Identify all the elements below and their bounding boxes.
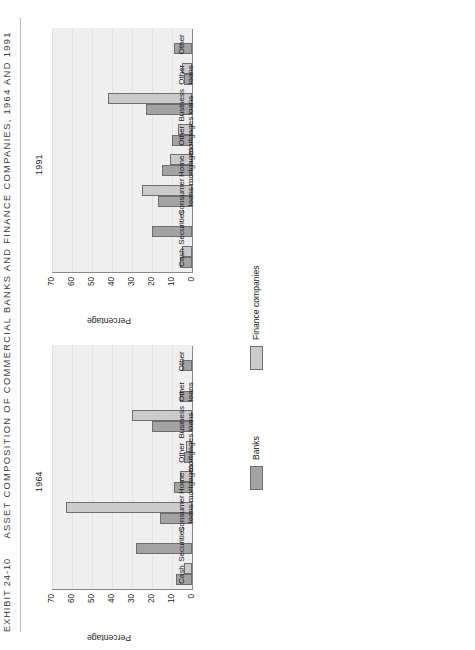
- gridline: [92, 345, 93, 589]
- exhibit-number: EXHIBIT 24-10: [2, 558, 12, 632]
- y-tick-label: 60: [67, 277, 76, 323]
- gridline: [72, 28, 73, 272]
- x-category-label: Other: [177, 25, 186, 64]
- x-category-label: Other: [177, 342, 186, 381]
- chart-panel-1991: 1991 010203040506070 Percentage CashSecu…: [34, 17, 230, 325]
- gridline: [112, 28, 113, 272]
- y-tick-label: 10: [167, 277, 176, 323]
- page-title: EXHIBIT 24-10 ASSET COMPOSITION OF COMME…: [2, 31, 12, 632]
- y-tick-label: 0: [187, 277, 196, 323]
- gridline: [52, 28, 53, 272]
- plot-area-1991: [52, 28, 192, 273]
- y-axis-label-1964: Percentage: [87, 633, 131, 643]
- exhibit-title-text: ASSET COMPOSITION OF COMMERCIAL BANKS AN…: [2, 31, 12, 538]
- y-tick-label: 20: [147, 277, 156, 323]
- y-tick-label: 20: [147, 594, 156, 640]
- gridline: [112, 345, 113, 589]
- chart-panel-1964: 1964 010203040506070 Percentage CashSecu…: [34, 334, 230, 642]
- legend-swatch-banks: [250, 466, 263, 490]
- chart-title-1991: 1991: [34, 154, 44, 175]
- gridline: [132, 28, 133, 272]
- gridline: [52, 345, 53, 589]
- y-tick-label: 60: [67, 594, 76, 640]
- y-axis-label-1991: Percentage: [87, 316, 131, 326]
- bar-finance-companies: [66, 502, 192, 513]
- gridline: [92, 28, 93, 272]
- exhibit-page: EXHIBIT 24-10 ASSET COMPOSITION OF COMME…: [0, 0, 475, 650]
- legend-swatch-finance: [250, 346, 263, 370]
- y-tick-label: 70: [47, 594, 56, 640]
- legend-label-banks: Banks: [251, 436, 261, 460]
- gridline: [132, 345, 133, 589]
- y-tick-label: 0: [187, 594, 196, 640]
- chart-title-1964: 1964: [34, 471, 44, 492]
- chart-legend: BanksFinance companies: [248, 160, 278, 490]
- title-divider: [20, 18, 21, 632]
- gridline: [72, 345, 73, 589]
- legend-label-finance: Finance companies: [251, 265, 261, 340]
- exhibit-canvas: EXHIBIT 24-10 ASSET COMPOSITION OF COMME…: [0, 0, 475, 650]
- y-tick-label: 70: [47, 277, 56, 323]
- plot-area-1964: [52, 345, 192, 590]
- y-tick-label: 10: [167, 594, 176, 640]
